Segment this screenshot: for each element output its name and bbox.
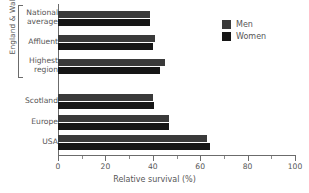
legend-label-women: Women	[236, 32, 266, 41]
category-label-5: USA	[4, 138, 58, 147]
legend-label-men: Men	[236, 20, 253, 29]
category-label-0: Nationalaverage	[4, 9, 58, 26]
bar-women-1	[58, 43, 153, 50]
bar-women-0	[58, 19, 150, 26]
women-swatch-icon	[222, 32, 231, 41]
bar-men-2	[58, 59, 165, 66]
x-tick-label-80: 80	[243, 162, 253, 171]
bar-men-4	[58, 115, 169, 122]
legend-item-men: Men	[222, 20, 302, 29]
bar-women-3	[58, 102, 154, 109]
bar-women-4	[58, 123, 169, 130]
x-tick-label-100: 100	[288, 162, 303, 171]
category-axis-labels: NationalaverageAffluentHighestregionScot…	[4, 0, 58, 155]
bar-men-3	[58, 94, 153, 101]
x-minor-tick-90	[271, 156, 272, 159]
x-tick-label-20: 20	[101, 162, 111, 171]
category-label-4: Europe	[4, 118, 58, 127]
men-swatch-icon	[222, 20, 231, 29]
x-tick-label-0: 0	[56, 162, 61, 171]
bar-men-0	[58, 11, 150, 18]
legend-item-women: Women	[222, 32, 302, 41]
relative-survival-bar-chart: England & Wales NationalaverageAffluentH…	[0, 0, 309, 193]
x-tick-0	[58, 156, 59, 161]
bar-men-5	[58, 135, 207, 142]
category-label-1: Affluent	[4, 38, 58, 47]
x-tick-80	[248, 156, 249, 161]
bar-men-1	[58, 35, 155, 42]
category-label-3: Scotland	[4, 97, 58, 106]
bar-women-2	[58, 67, 160, 74]
x-tick-label-40: 40	[148, 162, 158, 171]
x-tick-60	[200, 156, 201, 161]
category-label-2: Highestregion	[4, 57, 58, 74]
bar-women-5	[58, 143, 210, 150]
x-tick-label-60: 60	[195, 162, 205, 171]
x-tick-100	[295, 156, 296, 161]
x-minor-tick-50	[177, 156, 178, 159]
x-minor-tick-30	[129, 156, 130, 159]
x-minor-tick-10	[82, 156, 83, 159]
x-axis-title: Relative survival (%)	[0, 175, 309, 184]
x-tick-40	[153, 156, 154, 161]
legend: Men Women	[222, 20, 302, 44]
x-minor-tick-70	[224, 156, 225, 159]
x-tick-20	[105, 156, 106, 161]
